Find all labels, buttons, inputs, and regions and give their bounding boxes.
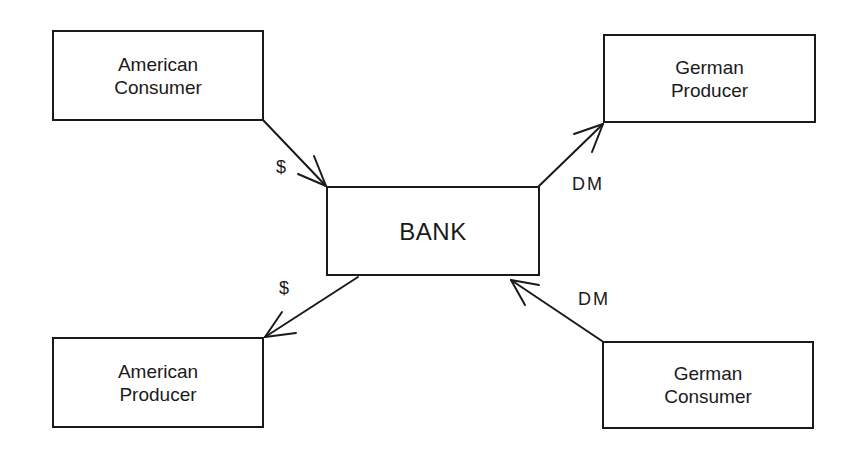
node-label-line: American [118,53,198,76]
node-label-line: American [118,360,198,383]
edge-label-dm-in: DM [578,289,610,310]
node-label-line: German [674,362,743,385]
node-label-line: Producer [671,79,748,102]
node-german-consumer: German Consumer [602,341,814,429]
node-label-line: BANK [399,220,466,243]
node-label-line: Consumer [114,76,202,99]
node-german-producer: German Producer [603,34,816,123]
node-label-line: Consumer [664,385,752,408]
edge-label-dollar-in: $ [276,157,286,178]
node-american-consumer: American Consumer [52,30,264,121]
edge-label-dm-out: DM [572,174,604,195]
node-label-line: German [675,56,744,79]
node-label-line: Producer [119,383,196,406]
edge-label-dollar-out: $ [279,278,289,299]
node-american-producer: American Producer [52,337,264,428]
node-bank: BANK [326,186,540,276]
arrow-american-consumer-to-bank [263,120,326,186]
